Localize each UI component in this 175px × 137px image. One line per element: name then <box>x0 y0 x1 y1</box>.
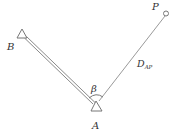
label-distance-AP: DAP <box>136 58 153 70</box>
label-P: P <box>151 1 159 12</box>
label-beta: β <box>90 83 97 94</box>
station-B-triangle-icon <box>17 29 27 38</box>
label-A: A <box>91 120 99 131</box>
angle-beta-arc <box>89 95 103 98</box>
diagram-canvas: P B A β DAP <box>0 0 175 137</box>
station-A-triangle-icon <box>91 101 102 111</box>
point-P-circle-icon <box>164 11 169 16</box>
label-distance-sub: AP <box>144 64 153 70</box>
line-AP <box>99 16 165 101</box>
label-B: B <box>6 41 14 52</box>
baseline-BA <box>25 37 96 105</box>
